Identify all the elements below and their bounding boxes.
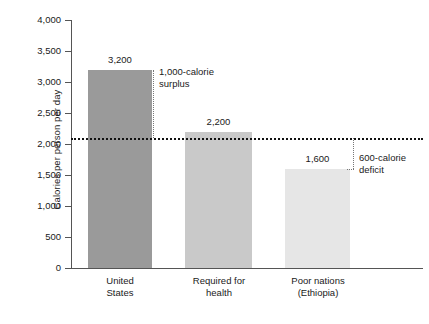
y-tick-label-2500: 2,500 (0, 108, 61, 118)
y-tick-label-1500: 1,500 (0, 170, 61, 180)
category-label-united-states-line2: States (80, 287, 160, 299)
surplus-leader-line (153, 70, 154, 138)
calories-bar-chart: Calories per person per day 4,000 3,500 … (0, 0, 429, 324)
y-tick-3500 (65, 51, 71, 52)
surplus-annotation: 1,000-calorie surplus (159, 66, 214, 89)
category-label-poor-nations-line2: (Ethiopia) (276, 287, 360, 299)
y-tick-label-4000: 4,000 (0, 15, 61, 25)
deficit-leader-foot (347, 169, 354, 170)
x-axis-line (71, 268, 423, 269)
y-tick-label-1000: 1,000 (0, 201, 61, 211)
category-label-poor-nations: Poor nations (Ethiopia) (276, 275, 360, 298)
bar-required-for-health (185, 132, 252, 268)
category-label-united-states: United States (80, 275, 160, 298)
category-label-required-for-health-line2: health (177, 287, 261, 299)
deficit-annotation-line1: 600-calorie (359, 152, 406, 163)
y-tick-500 (65, 237, 71, 238)
y-tick-0 (65, 268, 71, 269)
y-axis-line (71, 20, 72, 269)
category-label-poor-nations-line1: Poor nations (276, 275, 360, 287)
y-tick-label-0: 0 (0, 263, 61, 273)
category-label-required-for-health-line1: Required for (177, 275, 261, 287)
y-tick-label-3000: 3,000 (0, 77, 61, 87)
surplus-annotation-line2: surplus (159, 78, 190, 89)
y-tick-4000 (65, 20, 71, 21)
bar-united-states (88, 70, 152, 268)
bar-value-required-for-health: 2,200 (185, 117, 252, 127)
bar-poor-nations (285, 169, 350, 268)
deficit-leader-line (353, 138, 354, 169)
y-tick-1500 (65, 175, 71, 176)
category-label-required-for-health: Required for health (177, 275, 261, 298)
bar-value-united-states: 3,200 (88, 55, 152, 65)
bar-value-poor-nations: 1,600 (285, 154, 350, 164)
y-tick-label-2000: 2,000 (0, 139, 61, 149)
y-tick-1000 (65, 206, 71, 207)
y-tick-label-3500: 3,500 (0, 46, 61, 56)
y-tick-2500 (65, 113, 71, 114)
deficit-annotation: 600-calorie deficit (359, 152, 406, 175)
y-tick-2000 (65, 144, 71, 145)
surplus-annotation-line1: 1,000-calorie (159, 66, 214, 77)
y-tick-3000 (65, 82, 71, 83)
y-tick-label-500: 500 (0, 232, 61, 242)
deficit-annotation-line2: deficit (359, 164, 384, 175)
category-label-united-states-line1: United (80, 275, 160, 287)
reference-line-2200 (71, 138, 423, 140)
